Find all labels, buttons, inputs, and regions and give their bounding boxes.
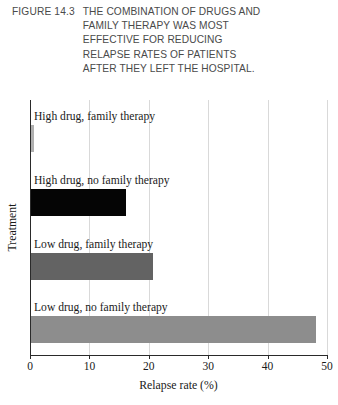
x-tick-label: 40 xyxy=(262,360,274,372)
x-axis-label: Relapse rate (%) xyxy=(30,378,327,393)
bar xyxy=(31,125,34,152)
bar-label: Low drug, no family therapy xyxy=(34,301,168,314)
figure-title: THE COMBINATION OF DRUGS AND FAMILY THER… xyxy=(83,5,334,76)
x-tick-mark xyxy=(89,355,90,359)
x-tick-label: 50 xyxy=(321,360,333,372)
bar-label: High drug, family therapy xyxy=(34,110,155,123)
bar-chart: High drug, family therapyHigh drug, no f… xyxy=(0,92,338,405)
gridline xyxy=(327,100,328,355)
x-tick-label: 30 xyxy=(202,360,214,372)
x-tick-mark xyxy=(30,355,31,359)
figure-title-line: RELAPSE RATES OF PATIENTS xyxy=(83,48,334,62)
figure-title-line: EFFECTIVE FOR REDUCING xyxy=(83,33,334,47)
x-tick-mark xyxy=(208,355,209,359)
figure-container: FIGURE 14.3 THE COMBINATION OF DRUGS AND… xyxy=(0,0,338,405)
bar-label: High drug, no family therapy xyxy=(34,174,170,187)
bar xyxy=(31,189,126,216)
x-tick-mark xyxy=(268,355,269,359)
bar-label: Low drug, family therapy xyxy=(34,238,153,251)
x-tick-label: 0 xyxy=(27,360,33,372)
figure-title-line: AFTER THEY LEFT THE HOSPITAL. xyxy=(83,62,334,76)
x-tick-mark xyxy=(327,355,328,359)
figure-caption: FIGURE 14.3 THE COMBINATION OF DRUGS AND… xyxy=(0,0,338,92)
y-axis-label: Treatment xyxy=(5,183,20,273)
bar xyxy=(31,253,153,280)
x-axis-line xyxy=(30,355,327,356)
figure-title-line: THE COMBINATION OF DRUGS AND xyxy=(83,5,334,19)
x-tick-label: 20 xyxy=(143,360,155,372)
figure-title-line: FAMILY THERAPY WAS MOST xyxy=(83,19,334,33)
bar xyxy=(31,316,316,343)
figure-number: FIGURE 14.3 xyxy=(12,5,83,19)
x-tick-mark xyxy=(149,355,150,359)
x-tick-label: 10 xyxy=(84,360,96,372)
